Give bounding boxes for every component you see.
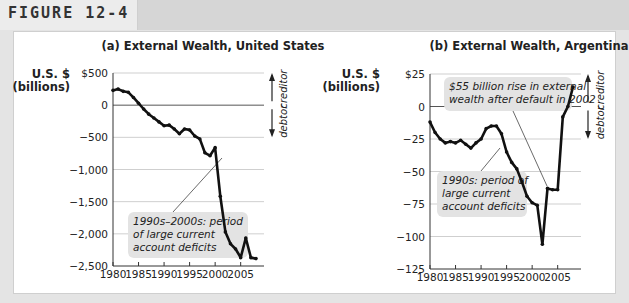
data-point bbox=[157, 120, 161, 124]
data-point bbox=[515, 167, 519, 171]
data-point bbox=[505, 150, 509, 154]
data-point bbox=[208, 154, 212, 158]
data-point bbox=[203, 151, 207, 155]
data-point bbox=[254, 257, 258, 261]
data-point bbox=[561, 115, 565, 119]
data-point bbox=[178, 132, 182, 136]
annotation-text: $55 billion rise in external bbox=[449, 80, 586, 92]
data-point bbox=[459, 139, 463, 143]
data-point bbox=[229, 242, 233, 246]
y-tick-label: −2,000 bbox=[69, 228, 108, 240]
data-point bbox=[489, 124, 493, 128]
debtor-label: debtor bbox=[595, 105, 606, 139]
annotation-leader-line bbox=[173, 158, 222, 212]
creditor-label: creditor bbox=[278, 69, 289, 109]
annotation-text: of large current bbox=[133, 228, 216, 240]
data-point bbox=[535, 204, 539, 208]
data-point bbox=[444, 141, 448, 145]
data-point bbox=[433, 131, 437, 135]
data-point bbox=[147, 112, 151, 116]
creditor-label: creditor bbox=[595, 70, 606, 110]
data-point bbox=[188, 128, 192, 132]
arrowhead-up-icon bbox=[269, 73, 275, 81]
data-point bbox=[249, 256, 253, 260]
data-point bbox=[132, 96, 136, 100]
chart-title: (b) External Wealth, Argentina bbox=[430, 39, 629, 53]
data-point bbox=[571, 85, 575, 89]
data-point bbox=[142, 107, 146, 111]
data-point bbox=[244, 236, 248, 240]
y-tick-label: −75 bbox=[403, 198, 425, 210]
data-point bbox=[167, 123, 171, 127]
data-point bbox=[183, 127, 187, 131]
data-point bbox=[438, 137, 442, 141]
data-point bbox=[428, 120, 432, 124]
x-tick-label: 1995 bbox=[493, 271, 520, 283]
data-point bbox=[484, 127, 488, 131]
data-point bbox=[193, 134, 197, 138]
y-tick-label: 0 bbox=[101, 99, 108, 111]
x-tick-label: 1985 bbox=[125, 268, 152, 280]
data-point bbox=[479, 137, 483, 141]
y-tick-label: −1,500 bbox=[69, 196, 108, 208]
y-tick-label: −1,000 bbox=[69, 164, 108, 176]
y-tick-label: −50 bbox=[403, 166, 425, 178]
y-axis-label: U.S. $ bbox=[32, 67, 70, 81]
data-point bbox=[495, 124, 499, 128]
annotation-text: account deficits bbox=[133, 241, 217, 253]
annotation-text: large current bbox=[442, 187, 511, 199]
data-point bbox=[525, 194, 529, 198]
data-point bbox=[474, 141, 478, 145]
annotation-text: wealth after default in 2002 bbox=[449, 93, 596, 105]
data-point bbox=[530, 201, 534, 205]
data-point bbox=[116, 87, 120, 91]
data-point bbox=[551, 188, 555, 192]
data-point bbox=[520, 180, 524, 184]
data-point bbox=[464, 142, 468, 146]
x-tick-label: 2005 bbox=[544, 271, 571, 283]
x-tick-label: 1980 bbox=[417, 271, 444, 283]
y-axis-label-unit: (billions) bbox=[323, 80, 380, 94]
chart-us: (a) External Wealth, United StatesU.S. $… bbox=[13, 39, 325, 280]
data-point bbox=[121, 90, 125, 94]
chart-title: (a) External Wealth, United States bbox=[102, 39, 325, 53]
data-point bbox=[239, 256, 243, 260]
annotation-leader-line bbox=[481, 148, 500, 171]
y-tick-label: $25 bbox=[405, 68, 425, 80]
chart-argentina: (b) External Wealth, ArgentinaU.S. $(bil… bbox=[323, 39, 629, 283]
data-point bbox=[218, 194, 222, 198]
data-point bbox=[127, 91, 131, 95]
data-point bbox=[234, 247, 238, 251]
x-tick-label: 1985 bbox=[442, 271, 469, 283]
data-point bbox=[541, 243, 545, 247]
arrowhead-up-icon bbox=[585, 74, 591, 82]
x-tick-label: 2005 bbox=[227, 268, 254, 280]
data-point bbox=[510, 161, 514, 165]
data-point bbox=[198, 137, 202, 141]
y-axis-label: U.S. $ bbox=[342, 67, 380, 81]
y-tick-label: 0 bbox=[418, 101, 425, 113]
y-axis-label-unit: (billions) bbox=[13, 80, 70, 94]
y-tick-label: $500 bbox=[81, 67, 108, 79]
x-tick-label: 2000 bbox=[519, 271, 546, 283]
data-point bbox=[172, 127, 176, 131]
arrowhead-down-icon bbox=[269, 129, 275, 137]
y-tick-label: −25 bbox=[403, 133, 425, 145]
data-point bbox=[556, 188, 560, 192]
x-tick-label: 1980 bbox=[100, 268, 127, 280]
x-tick-label: 1990 bbox=[151, 268, 178, 280]
data-point bbox=[224, 230, 228, 234]
annotation-text: 1990s: period of bbox=[442, 174, 530, 186]
data-point bbox=[469, 146, 473, 150]
debtor-label: debtor bbox=[278, 104, 289, 138]
x-tick-label: 1990 bbox=[468, 271, 495, 283]
data-point bbox=[137, 101, 141, 105]
arrowhead-down-icon bbox=[585, 131, 591, 139]
data-point bbox=[162, 124, 166, 128]
y-tick-label: −100 bbox=[396, 231, 425, 243]
charts-canvas: (a) External Wealth, United StatesU.S. $… bbox=[0, 0, 629, 303]
x-tick-label: 1995 bbox=[176, 268, 203, 280]
data-point bbox=[111, 89, 115, 93]
y-tick-label: −500 bbox=[79, 131, 108, 143]
data-point bbox=[152, 116, 156, 120]
